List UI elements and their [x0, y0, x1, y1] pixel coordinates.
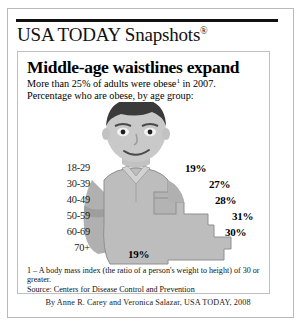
- subtitle-line1-a: More than 25% of adults were obese: [27, 78, 176, 89]
- footnote-source: Source: Centers for Disease Control and …: [27, 285, 262, 294]
- age-label-70-plus: 70+: [22, 240, 90, 256]
- age-label-30-39: 30-39: [22, 176, 90, 192]
- value-label-30-39: 27%: [209, 178, 230, 190]
- ear-right: [162, 128, 170, 140]
- age-label-60-69: 60-69: [22, 224, 90, 240]
- age-group-axis: 18-29 30-39 40-49 50-59 60-69 70+: [22, 160, 90, 257]
- ear-left: [102, 128, 110, 140]
- chart-panel: Middle-age waistlines expand More than 2…: [17, 51, 270, 294]
- value-label-70-plus: 19%: [128, 248, 149, 260]
- age-label-50-59: 50-59: [22, 208, 90, 224]
- footnote-block: 1 – A body mass index (the ratio of a pe…: [27, 266, 262, 294]
- footnote-definition: 1 – A body mass index (the ratio of a pe…: [27, 266, 260, 284]
- value-label-60-69: 30%: [225, 226, 246, 238]
- value-label-40-49: 28%: [215, 194, 236, 206]
- logo-text: USA TODAY Snapshots: [17, 24, 200, 45]
- pupil-left: [121, 130, 126, 135]
- value-label-50-59: 31%: [232, 210, 253, 222]
- byline: By Anne R. Carey and Veronica Salazar, U…: [17, 298, 279, 307]
- top-rule-divider: [16, 19, 278, 22]
- subtitle-line1-b: in 2007.: [180, 78, 216, 89]
- subtitle: More than 25% of adults were obese1 in 2…: [27, 78, 267, 101]
- age-label-18-29: 18-29: [22, 160, 90, 176]
- snapshot-infographic: USA TODAY Snapshots® Middle-age waistlin…: [0, 0, 301, 326]
- page-title: Middle-age waistlines expand: [27, 57, 267, 77]
- pupil-right: [148, 130, 153, 135]
- registered-trademark-icon: ®: [200, 25, 207, 36]
- subtitle-line2: Percentage who are obese, by age group:: [27, 90, 194, 101]
- age-label-40-49: 40-49: [22, 192, 90, 208]
- usa-today-snapshots-logo: USA TODAY Snapshots®: [17, 24, 279, 46]
- value-label-18-29: 19%: [185, 162, 206, 174]
- right-arm-shape: [168, 180, 184, 202]
